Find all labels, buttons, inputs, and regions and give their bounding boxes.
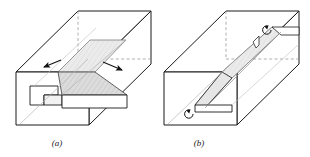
figure-container: (a) [0,0,310,157]
slip-step-b-ledge [195,105,232,112]
slip-step-a-riser [44,95,62,105]
caption-b: (b) [194,138,205,148]
dislocation-diagram: (a) [0,0,310,157]
slip-step-a-right [62,95,127,108]
caption-a: (a) [52,138,63,148]
